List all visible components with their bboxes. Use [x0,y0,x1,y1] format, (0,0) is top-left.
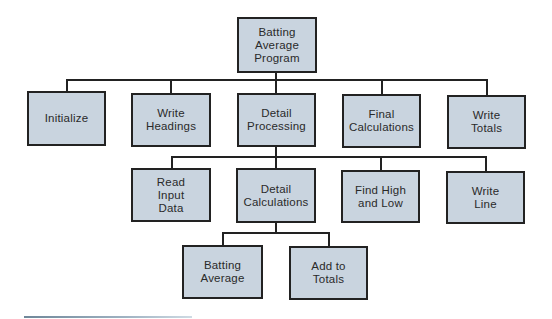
node-write-totals: Write Totals [447,95,526,149]
connector-drop [275,156,277,168]
node-detail-calculations: Detail Calculations [236,168,316,223]
node-batting-average: Batting Average [182,245,263,299]
node-detail-processing: Detail Processing [237,93,316,147]
node-read-input-data: Read Input Data [131,168,211,222]
connector-drop [170,79,172,93]
connector-bus [171,156,487,158]
connector-drop [328,232,330,246]
connector-drop [171,156,173,168]
connector-bus [222,232,330,234]
connector-drop [66,79,68,91]
connector-bus [66,79,488,81]
node-write-line: Write Line [446,171,525,224]
connector-drop [486,79,488,95]
node-write-headings: Write Headings [131,93,211,147]
node-initialize: Initialize [27,91,106,146]
node-final-calculations: Final Calculations [342,94,421,148]
hierarchy-chart: Batting Average ProgramInitializeWrite H… [0,0,552,319]
decorative-rule [24,316,192,318]
connector-drop [380,156,382,170]
connector-drop [275,79,277,93]
node-find-high-and-low: Find High and Low [341,170,420,223]
connector-drop [485,156,487,171]
connector-drop [222,232,224,245]
node-add-to-totals: Add to Totals [289,246,368,300]
node-root: Batting Average Program [237,17,317,73]
connector-drop [381,79,383,94]
